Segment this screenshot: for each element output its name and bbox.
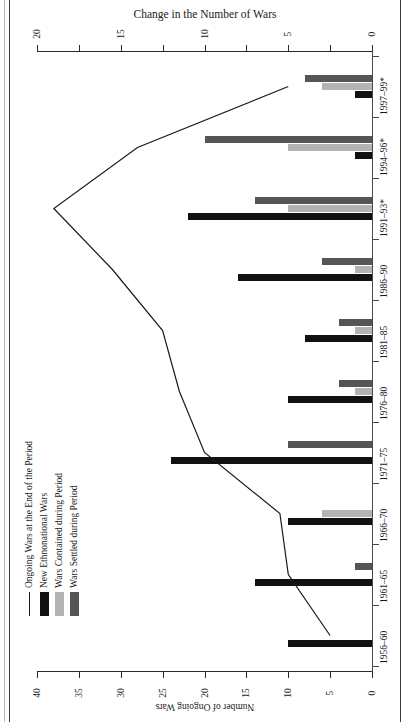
figure-page: Figure 7.1. Trends in Ethnonational Wars…	[0, 0, 410, 722]
legend-label-1: Ongoing Wars at the End of the Period	[24, 441, 34, 588]
category-axis-label: 1991–93*	[379, 199, 389, 237]
legend-label-4: Wars Settled during Period	[69, 486, 79, 588]
legend-swatch-3	[55, 592, 64, 616]
category-axis-label: 1994–96*	[379, 138, 389, 176]
legend-label-3: Wars Contained during Period	[54, 473, 64, 588]
category-axis-label: 1961–65	[379, 569, 389, 602]
legend-swatch-4	[70, 592, 79, 616]
category-axis-label: 1986–90	[379, 264, 389, 297]
category-axis-label: 1971–75	[379, 447, 389, 480]
chart-legend: Ongoing Wars at the End of the PeriodNew…	[25, 396, 135, 616]
category-axis-label: 1997–99*	[379, 77, 389, 115]
legend-swatch-1	[29, 592, 39, 616]
category-axis-label: 1976–80	[379, 386, 389, 419]
legend-swatch-2	[40, 592, 49, 616]
legend-label-2: New Ethnonational Wars	[39, 493, 49, 588]
category-axis-label: 1981–85	[379, 325, 389, 358]
category-axis-label: 1956–60	[379, 630, 389, 663]
category-axis-label: 1966–70	[379, 508, 389, 541]
